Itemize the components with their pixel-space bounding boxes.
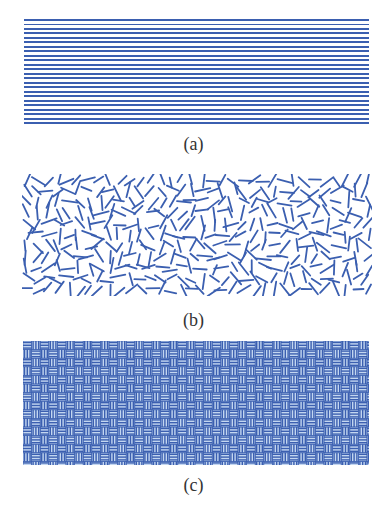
label-a: (a) (0, 134, 387, 155)
label-c: (c) (0, 475, 387, 496)
panel-c-basket-weave (23, 341, 369, 465)
panel-a-parallel-lines (24, 19, 369, 126)
panel-b-random-segments (22, 174, 372, 296)
label-b: (b) (0, 310, 387, 331)
